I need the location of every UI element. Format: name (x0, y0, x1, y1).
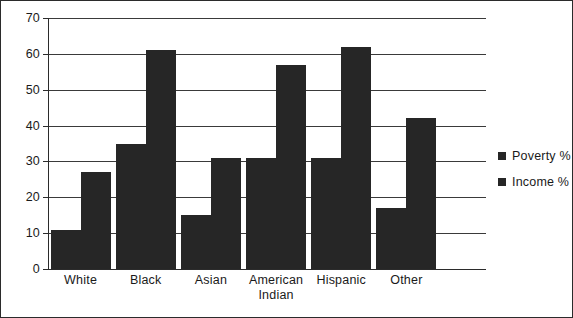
bar-income-hispanic (341, 47, 371, 269)
bar-group (244, 18, 309, 269)
bar-poverty-black (116, 144, 146, 270)
bar-poverty-white (51, 230, 81, 269)
bar-income-other (406, 118, 436, 269)
bar-group (113, 18, 178, 269)
x-axis-label-white: White (48, 273, 113, 288)
bar-income-asian (211, 158, 241, 269)
y-axis-tick-label: 50 (26, 83, 40, 97)
legend-item-poverty[interactable]: Poverty % (498, 149, 571, 163)
legend-swatch-icon (498, 152, 506, 160)
x-axis-label-asian: Asian (178, 273, 243, 288)
x-axis-category-labels: WhiteBlackAsianAmericanIndianHispanicOth… (48, 273, 439, 313)
x-axis-label-line: White (48, 273, 113, 288)
y-axis-tick-label: 70 (26, 11, 40, 25)
x-axis-label-line: Hispanic (309, 273, 374, 288)
x-axis-label-hispanic: Hispanic (309, 273, 374, 288)
y-axis-tick-label: 40 (26, 119, 40, 133)
bar-group (48, 18, 113, 269)
bar-income-black (146, 50, 176, 269)
y-axis-tick-label: 10 (26, 226, 40, 240)
bar-poverty-asian (181, 215, 211, 269)
x-axis-label-american-indian: AmericanIndian (244, 273, 309, 303)
chart-legend: Poverty %Income % (498, 149, 571, 201)
x-axis-label-line: Asian (178, 273, 243, 288)
x-axis-label-other: Other (374, 273, 439, 288)
chart-container: 706050403020100 WhiteBlackAsianAmericanI… (0, 0, 573, 318)
legend-swatch-icon (498, 178, 506, 186)
bar-group (309, 18, 374, 269)
bar-group (374, 18, 439, 269)
y-axis-tick-label: 30 (26, 154, 40, 168)
bars-layer (48, 18, 439, 269)
bar-group (178, 18, 243, 269)
legend-label: Poverty % (512, 149, 571, 163)
gridline-0 (48, 269, 486, 270)
bar-poverty-american-indian (246, 158, 276, 269)
legend-item-income[interactable]: Income % (498, 175, 571, 189)
bar-poverty-hispanic (311, 158, 341, 269)
y-axis-tick-label: 0 (33, 262, 40, 276)
bar-poverty-other (376, 208, 406, 269)
bar-income-american-indian (276, 65, 306, 269)
y-axis-tick-label: 20 (26, 190, 40, 204)
y-axis-tick-label: 60 (26, 47, 40, 61)
x-axis-label-line: Other (374, 273, 439, 288)
x-axis-label-line: Black (113, 273, 178, 288)
bar-income-white (81, 172, 111, 269)
x-axis-label-line: American (244, 273, 309, 288)
x-axis-label-line: Indian (244, 288, 309, 303)
x-axis-label-black: Black (113, 273, 178, 288)
legend-label: Income % (512, 175, 569, 189)
